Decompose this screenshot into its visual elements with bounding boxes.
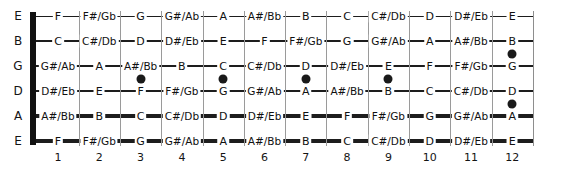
note-s1-f4: D#/Eb	[163, 35, 201, 48]
fret-wire-4	[203, 11, 204, 146]
note-s4-f5: D	[217, 110, 229, 123]
note-s5-f6: A#/Bb	[246, 135, 283, 148]
fret-number-12: 12	[505, 152, 519, 163]
note-s5-f3: G	[134, 135, 147, 148]
note-s0-f12: E	[507, 10, 518, 23]
note-s3-f9: B	[383, 85, 395, 98]
note-s5-f9: C#/Db	[369, 135, 407, 148]
note-s2-f10: F	[425, 60, 435, 73]
note-s5-f11: D#/Eb	[452, 135, 490, 148]
fret-number-11: 11	[464, 152, 478, 163]
note-s2-f8: D#/Eb	[328, 60, 366, 73]
note-s4-f7: E	[300, 110, 311, 123]
note-s2-f1: G#/Ab	[39, 60, 77, 73]
note-s3-f11: C#/Db	[452, 85, 490, 98]
fret-inlay-dot-7-2	[301, 74, 310, 83]
note-s0-f3: G	[134, 10, 147, 23]
fret-number-1: 1	[55, 152, 62, 163]
note-s1-f6: F	[259, 35, 269, 48]
fret-wire-5	[244, 11, 245, 146]
fret-wire-10	[450, 11, 451, 146]
note-s1-f3: D	[134, 35, 146, 48]
note-s0-f4: G#/Ab	[163, 10, 201, 23]
fret-inlay-dot-3-0	[136, 74, 145, 83]
note-s4-f9: F#/Gb	[370, 110, 407, 123]
note-s1-f5: E	[218, 35, 229, 48]
note-s1-f9: G#/Ab	[369, 35, 407, 48]
fret-wire-6	[285, 11, 286, 146]
note-s0-f5: A	[217, 10, 229, 23]
note-s3-f7: A	[300, 85, 312, 98]
fret-wire-3	[161, 11, 162, 146]
fret-wire-8	[368, 11, 369, 146]
note-s1-f2: C#/Db	[80, 35, 118, 48]
note-s0-f9: C#/Db	[369, 10, 407, 23]
note-s3-f8: A#/Bb	[328, 85, 365, 98]
note-s2-f12: G	[506, 60, 519, 73]
note-s0-f10: D	[423, 10, 435, 23]
fret-number-10: 10	[423, 152, 437, 163]
note-s3-f5: G	[217, 85, 230, 98]
note-s1-f10: A	[424, 35, 436, 48]
fret-number-9: 9	[385, 152, 392, 163]
note-s3-f1: D#/Eb	[39, 85, 77, 98]
note-s3-f2: E	[94, 85, 105, 98]
note-s2-f5: C	[217, 60, 229, 73]
fret-number-2: 2	[96, 152, 103, 163]
note-s1-f1: C	[52, 35, 64, 48]
note-s5-f8: C	[341, 135, 353, 148]
note-s3-f10: C	[424, 85, 436, 98]
fret-wire-11	[492, 11, 493, 146]
note-s5-f1: F	[53, 135, 63, 148]
note-s0-f11: D#/Eb	[452, 10, 490, 23]
note-s4-f10: G	[423, 110, 436, 123]
note-s2-f2: A	[94, 60, 106, 73]
fret-number-4: 4	[178, 152, 185, 163]
guitar-fretboard-diagram: EBGDAEFF#/GbGG#/AbAA#/BbBCC#/DbDD#/EbECC…	[0, 0, 582, 170]
note-s1-f12: B	[507, 35, 519, 48]
fret-wire-12	[533, 11, 534, 146]
note-s1-f8: G	[341, 35, 354, 48]
note-s0-f6: A#/Bb	[246, 10, 283, 23]
note-s5-f5: A	[217, 135, 229, 148]
fret-wire-7	[326, 11, 327, 146]
fret-inlay-dot-5-1	[219, 74, 228, 83]
note-s3-f12: D	[506, 85, 518, 98]
fret-number-6: 6	[261, 152, 268, 163]
note-s2-f7: D	[300, 60, 312, 73]
note-s5-f2: F#/Gb	[81, 135, 118, 148]
note-s5-f7: B	[300, 135, 312, 148]
note-s4-f4: C#/Db	[163, 110, 201, 123]
note-s4-f1: A#/Bb	[39, 110, 76, 123]
note-s3-f4: F#/Gb	[163, 85, 200, 98]
fret-number-8: 8	[344, 152, 351, 163]
open-string-label-1: B	[8, 35, 28, 47]
fret-wire-9	[409, 11, 410, 146]
note-s4-f12: A	[507, 110, 519, 123]
open-string-label-3: D	[8, 85, 28, 97]
note-s5-f4: G#/Ab	[163, 135, 201, 148]
note-s2-f3: A#/Bb	[122, 60, 159, 73]
fret-inlay-dot-9-3	[384, 74, 393, 83]
note-s3-f3: F	[135, 85, 145, 98]
fret-inlay-dot-12-5	[508, 99, 517, 108]
fret-number-5: 5	[220, 152, 227, 163]
nut	[30, 12, 36, 145]
open-string-label-0: E	[8, 10, 28, 22]
note-s4-f8: F	[342, 110, 352, 123]
fret-inlay-dot-12-4	[508, 49, 517, 58]
note-s4-f6: D#/Eb	[246, 110, 284, 123]
fret-wire-1	[79, 11, 80, 146]
fret-number-7: 7	[302, 152, 309, 163]
note-s4-f2: B	[94, 110, 106, 123]
note-s2-f11: F#/Gb	[452, 60, 489, 73]
fret-wire-2	[120, 11, 121, 146]
note-s4-f11: G#/Ab	[452, 110, 490, 123]
fret-number-3: 3	[137, 152, 144, 163]
note-s5-f10: D	[423, 135, 435, 148]
note-s3-f6: G#/Ab	[245, 85, 283, 98]
open-string-label-5: E	[8, 135, 28, 147]
open-string-label-2: G	[8, 60, 28, 72]
open-string-label-4: A	[8, 110, 28, 122]
note-s2-f9: E	[383, 60, 394, 73]
